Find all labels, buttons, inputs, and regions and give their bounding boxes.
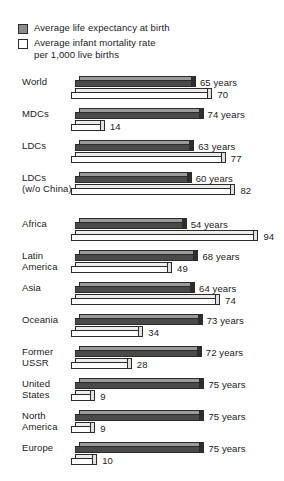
bar-end-cap [100,120,105,131]
bar-end-cap [189,140,194,151]
category-label: North America [22,410,78,432]
category-label: World [22,76,78,87]
chart-plot-area: World65 years70MDCs74 years14LDCs63 year… [0,0,284,481]
bar-value-life-expectancy: 54 years [191,219,228,230]
bar-front-face [71,266,168,273]
bar-end-cap [90,422,95,433]
bar-value-life-expectancy: 74 years [208,109,245,120]
bar-front-face [75,286,191,293]
bar-value-infant-mortality: 34 [148,327,159,338]
bar-infant-mortality [71,120,106,134]
bar-infant-mortality [71,88,213,102]
bar-end-cap [198,314,203,325]
bar-value-life-expectancy: 75 years [208,379,245,390]
bar-end-cap [215,294,220,305]
category-label: Oceania [22,314,78,325]
bar-end-cap [197,346,202,357]
bar-front-face [71,458,93,465]
bar-front-face [75,222,183,229]
bar-front-face [75,112,200,119]
bar-end-cap [182,218,187,229]
bar-end-cap [199,378,204,389]
bar-value-life-expectancy: 75 years [208,443,245,454]
bar-front-face [71,394,91,401]
category-label: Europe [22,442,78,453]
bar-end-cap [167,262,172,273]
category-label: Former USSR [22,346,78,368]
bar-end-cap [191,76,196,87]
bar-end-cap [207,88,212,99]
bar-value-life-expectancy: 60 years [196,173,233,184]
bar-end-cap [90,390,95,401]
bar-end-cap [127,358,132,369]
bar-value-infant-mortality: 9 [100,423,105,434]
bar-end-cap [187,172,192,183]
bar-front-face [71,92,208,99]
bar-front-face [71,234,254,241]
bar-end-cap [199,108,204,119]
bar-value-infant-mortality: 28 [137,359,148,370]
bar-value-infant-mortality: 10 [102,455,113,466]
bar-front-face [75,446,200,453]
bar-infant-mortality [71,390,96,404]
bar-end-cap [199,442,204,453]
bar-infant-mortality [71,294,221,308]
bar-infant-mortality [71,358,133,372]
bar-infant-mortality [71,184,236,198]
bar-infant-mortality [71,326,144,340]
bar-front-face [75,382,200,389]
bar-end-cap [138,326,143,337]
chart-container: Average life expectancy at birth Average… [0,0,284,481]
category-label: LDCs (w/o China) [22,172,78,194]
bar-value-life-expectancy: 63 years [198,141,235,152]
bar-value-life-expectancy: 73 years [207,315,244,326]
category-label: MDCs [22,108,78,119]
bar-value-infant-mortality: 9 [100,391,105,402]
category-label: United States [22,378,78,400]
bar-value-life-expectancy: 64 years [199,283,236,294]
category-label: Asia [22,282,78,293]
bar-end-cap [221,152,226,163]
bar-front-face [75,318,199,325]
bar-value-infant-mortality: 77 [231,153,242,164]
bar-value-life-expectancy: 72 years [206,347,243,358]
bar-front-face [75,350,198,357]
bar-end-cap [193,250,198,261]
category-label: LDCs [22,140,78,151]
bar-front-face [75,414,200,421]
bar-infant-mortality [71,422,96,436]
bar-value-infant-mortality: 82 [240,185,251,196]
bar-front-face [75,144,190,151]
bar-infant-mortality [71,454,98,468]
bar-front-face [71,362,128,369]
bar-end-cap [253,230,258,241]
bar-front-face [71,298,216,305]
bar-front-face [75,80,192,87]
bar-value-infant-mortality: 49 [177,263,188,274]
bar-value-infant-mortality: 14 [110,121,121,132]
bar-front-face [71,156,222,163]
bar-value-infant-mortality: 70 [217,89,228,100]
bar-value-life-expectancy: 75 years [208,411,245,422]
bar-value-infant-mortality: 74 [225,295,236,306]
bar-value-infant-mortality: 94 [263,231,274,242]
category-label: Latin America [22,250,78,272]
bar-end-cap [199,410,204,421]
bar-front-face [75,254,194,261]
bar-front-face [71,330,139,337]
bar-end-cap [230,184,235,195]
bar-infant-mortality [71,262,173,276]
bar-front-face [71,426,91,433]
bar-end-cap [190,282,195,293]
bar-front-face [71,188,231,195]
bar-value-life-expectancy: 65 years [200,77,237,88]
bar-value-life-expectancy: 68 years [202,251,239,262]
bar-infant-mortality [71,230,259,244]
bar-front-face [71,124,101,131]
bar-end-cap [92,454,97,465]
category-label: Africa [22,218,78,229]
bar-front-face [75,176,188,183]
bar-infant-mortality [71,152,227,166]
